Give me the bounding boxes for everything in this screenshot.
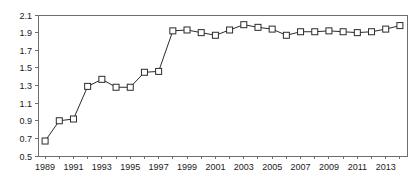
x-tick-label: 2005	[262, 162, 282, 172]
y-tick-label: 2.1	[19, 11, 32, 21]
data-point-marker	[241, 22, 247, 28]
line-chart: 0.50.70.91.11.31.51.71.92.1 198919911993…	[0, 0, 420, 182]
data-point-marker	[227, 27, 233, 33]
data-point-marker	[326, 28, 332, 34]
x-tick-label: 2003	[234, 162, 254, 172]
data-point-marker	[312, 29, 318, 35]
data-point-marker	[70, 116, 76, 122]
y-tick-label: 1.5	[19, 63, 32, 73]
data-point-marker	[170, 28, 176, 34]
plot-frame	[38, 15, 407, 156]
series-markers-1	[42, 22, 403, 144]
data-point-marker	[198, 30, 204, 36]
x-tick-label: 1993	[92, 162, 112, 172]
x-tick-label: 1991	[63, 162, 83, 172]
x-tick-label: 2007	[291, 162, 311, 172]
data-point-marker	[99, 76, 105, 82]
data-point-marker	[298, 29, 304, 35]
x-tick-label: 1999	[177, 162, 197, 172]
y-tick-label: 1.3	[19, 81, 32, 91]
x-tick-label: 1997	[149, 162, 169, 172]
x-tick-label: 2001	[205, 162, 225, 172]
axis-frame	[38, 15, 407, 156]
data-point-marker	[255, 24, 261, 30]
y-tick-label: 0.9	[19, 116, 32, 126]
y-tick-label: 1.1	[19, 99, 32, 109]
y-axis-tick-labels: 0.50.70.91.11.31.51.71.92.1	[19, 11, 32, 162]
y-tick-label: 0.7	[19, 134, 32, 144]
data-point-marker	[340, 29, 346, 35]
data-point-marker	[269, 26, 275, 32]
x-tick-label: 2009	[319, 162, 339, 172]
data-point-marker	[85, 83, 91, 89]
y-tick-label: 0.5	[19, 152, 32, 162]
y-tick-label: 1.9	[19, 28, 32, 38]
data-point-marker	[369, 29, 375, 35]
x-tick-label: 1995	[120, 162, 140, 172]
x-tick-label: 2011	[348, 162, 367, 172]
data-point-marker	[113, 84, 119, 90]
data-point-marker	[141, 69, 147, 75]
data-point-marker	[397, 23, 403, 29]
data-series	[42, 22, 403, 144]
data-point-marker	[127, 84, 133, 90]
y-tick-label: 1.7	[19, 46, 32, 56]
data-point-marker	[212, 32, 218, 38]
x-axis-tick-labels: 1989199119931995199719992001200320052007…	[35, 162, 396, 172]
data-point-marker	[383, 26, 389, 32]
x-tick-label: 1989	[35, 162, 55, 172]
data-point-marker	[283, 32, 289, 38]
data-point-marker	[354, 30, 360, 36]
chart-canvas: 0.50.70.91.11.31.51.71.92.1 198919911993…	[0, 0, 420, 182]
x-tick-label: 2013	[376, 162, 396, 172]
data-point-marker	[42, 138, 48, 144]
data-point-marker	[184, 27, 190, 33]
data-point-marker	[56, 118, 62, 124]
data-point-marker	[156, 68, 162, 74]
series-line-1	[45, 25, 400, 141]
